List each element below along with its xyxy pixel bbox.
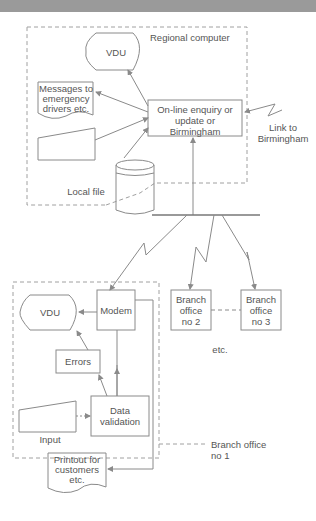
keyboard-shape-regional: [38, 128, 95, 160]
etc-label: etc.: [205, 344, 235, 355]
messages-label: Messages toemergencydrivers etc.: [37, 84, 95, 114]
validation-label: Datavalidation: [91, 405, 149, 427]
link-birmingham-label: Link toBirmingham: [250, 122, 316, 144]
branch-office-1-label: Branch officeno 1: [211, 439, 266, 461]
central-box-label: On-line enquiry orupdate orBirmingham: [148, 104, 242, 137]
local-file-cyl-top: [116, 160, 154, 170]
modem-label: Modem: [97, 305, 135, 316]
input-shape: [19, 401, 76, 432]
printout-label: Printout forcustomersetc.: [48, 455, 106, 485]
errors-label: Errors: [56, 356, 100, 367]
input-label: Input: [30, 434, 70, 445]
vdu-branch-label: VDU: [30, 307, 70, 318]
branch-office-3-label: Branchofficeno 3: [241, 294, 281, 327]
regional-title: Regional computer: [150, 32, 230, 43]
local-file-label: Local file: [56, 186, 116, 197]
vdu-regional-label: VDU: [96, 47, 136, 58]
branch-office-2-label: Branchofficeno 2: [171, 294, 211, 327]
